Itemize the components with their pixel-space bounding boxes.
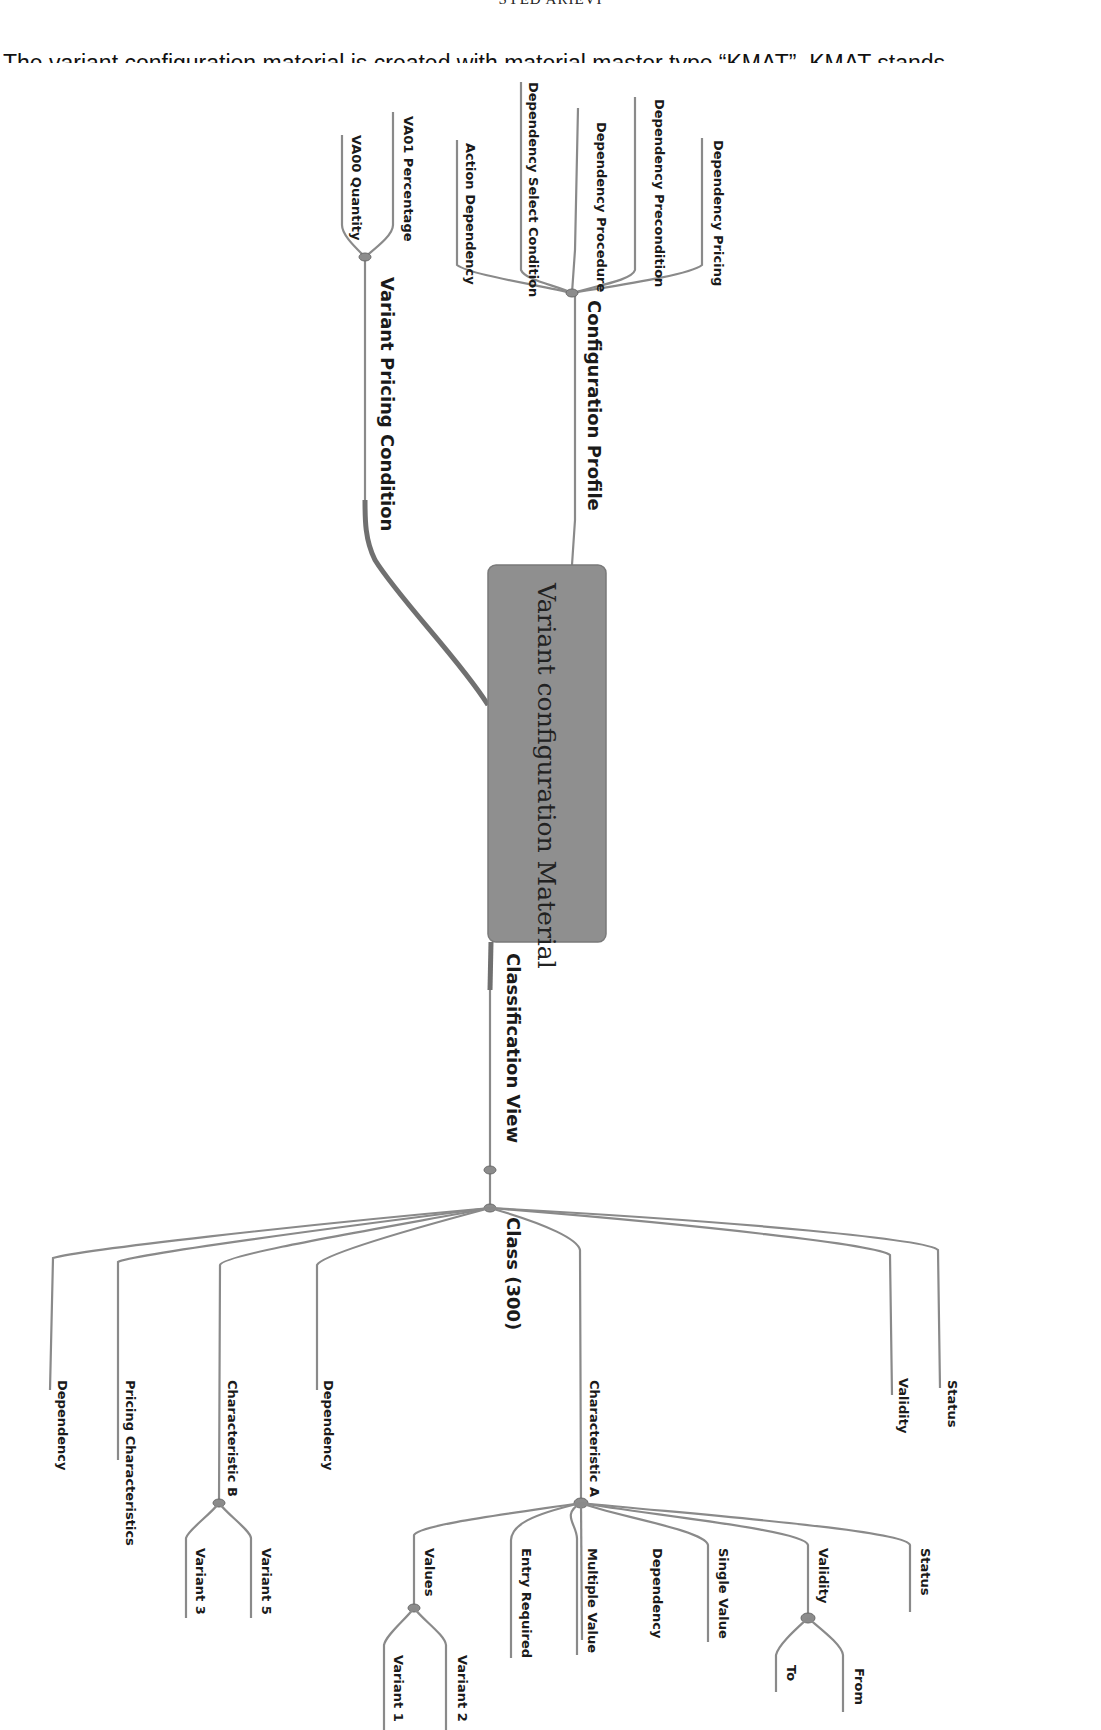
values-label: Values [422,1548,437,1597]
root-label: Variant configuration Material [532,582,561,969]
branch-classification-view: Classification View Class (300) Dependen… [50,942,960,1730]
classification-view-node [484,1166,496,1174]
characteristic-a-label: Characteristic A [587,1380,602,1497]
class-leaf-pricing-characteristics: Pricing Characteristics [123,1380,138,1546]
leaf-to: To [784,1665,799,1681]
class-leaf-validity: Validity [896,1378,911,1434]
leaf-status: Status [918,1548,933,1596]
leaf-from: From [852,1668,867,1705]
branch-configuration-profile: Configuration Profile Action Dependency … [457,82,726,565]
root-node: Variant configuration Material [488,565,606,969]
leaf-variant-3: Variant 3 [193,1548,208,1615]
leaf-multiple-value: Multiple Value [585,1548,600,1653]
leaf-dependency-pricing: Dependency Pricing [711,140,726,286]
leaf-dependency-select-condition: Dependency Select Condition [526,82,541,297]
leaf-variant-2: Variant 2 [455,1655,470,1722]
variant-pricing-condition-label: Variant Pricing Condition [377,277,398,531]
characteristic-b-label: Characteristic B [225,1380,240,1497]
leaf-entry-required: Entry Required [519,1548,534,1658]
configuration-profile-label: Configuration Profile [584,300,605,511]
leaf-va00-quantity: VA00 Quantity [349,135,364,241]
mindmap-diagram: Configuration Profile Action Dependency … [0,0,1101,1730]
leaf-variant-5: Variant 5 [259,1548,274,1615]
leaf-dependency: Dependency [650,1548,665,1639]
configuration-profile-node [566,289,578,297]
validity-label: Validity [816,1548,831,1604]
leaf-dependency-procedure: Dependency Procedure [594,122,609,292]
leaf-single-value: Single Value [716,1548,731,1639]
classification-view-label: Classification View [503,953,524,1143]
variant-pricing-node [359,253,371,261]
leaf-dependency-precondition: Dependency Precondition [652,99,667,287]
class-leaf-status: Status [945,1380,960,1428]
leaf-action-dependency: Action Dependency [463,143,478,285]
class-leaf-dependency-2: Dependency [321,1380,336,1471]
class-leaf-dependency-1: Dependency [55,1380,70,1471]
leaf-variant-1: Variant 1 [391,1655,406,1722]
class-300-label: Class (300) [503,1217,524,1330]
leaf-va01-percentage: VA01 Percentage [401,116,416,242]
